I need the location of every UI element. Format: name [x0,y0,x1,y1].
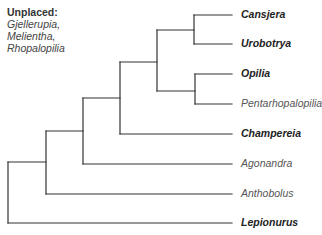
unplaced-genus: Melientha, [7,30,65,42]
taxon-label-cansjera: Cansjera [241,8,285,20]
unplaced-genus: Gjellerupia, [7,18,65,30]
taxon-label-urobotrya: Urobotrya [241,37,291,49]
taxon-label-anthobolus: Anthobolus [241,187,294,199]
taxon-label-lepionurus: Lepionurus [241,216,298,228]
unplaced-genus: Rhopalopilia [7,42,65,54]
taxon-label-opilia: Opilia [241,67,270,79]
taxon-label-agonandra: Agonandra [241,157,292,169]
unplaced-genera-note: Unplaced: Gjellerupia, Melientha, Rhopal… [7,6,65,54]
taxon-label-pentarhopalopilia: Pentarhopalopilia [241,97,322,109]
unplaced-heading: Unplaced: [7,6,65,18]
taxon-label-champereia: Champereia [241,127,301,139]
